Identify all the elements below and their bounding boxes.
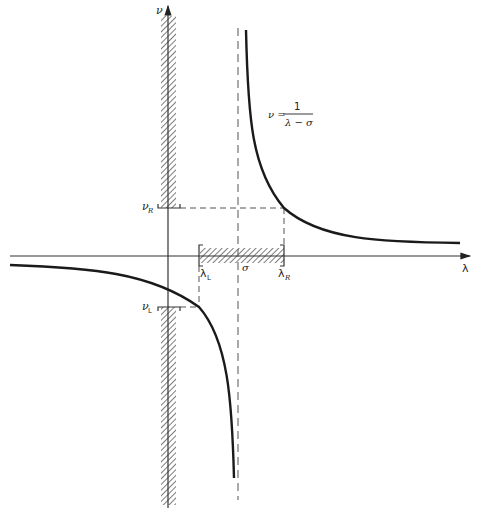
- svg-text:λ: λ: [278, 267, 285, 280]
- sigma-label: σ: [242, 262, 250, 273]
- lambda-axis-label: λ: [462, 262, 469, 275]
- diagram-canvas: ν λ ν = 1 λ − σ σ λ L λ R ν R ν L: [0, 0, 477, 511]
- lambda-r-label: λ R: [278, 267, 291, 282]
- svg-text:λ: λ: [200, 267, 207, 280]
- nu-axis-label: ν: [156, 4, 163, 17]
- equation-lhs: ν =: [268, 109, 286, 120]
- nu-l-label: ν L: [142, 300, 152, 315]
- upper-right-branch: [246, 30, 460, 243]
- equation-denominator: λ − σ: [284, 117, 314, 128]
- lower-left-branch: [10, 265, 234, 478]
- svg-text:L: L: [207, 274, 211, 282]
- svg-text:R: R: [284, 274, 291, 282]
- svg-text:R: R: [147, 207, 154, 215]
- lambda-l-label: λ L: [200, 267, 211, 282]
- nu-r-label: ν R: [142, 200, 154, 215]
- equation-numerator: 1: [294, 101, 300, 112]
- svg-text:L: L: [148, 307, 152, 315]
